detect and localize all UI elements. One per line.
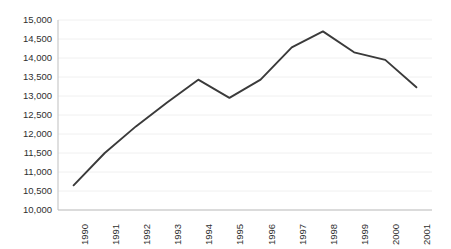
x-axis-tick-label: 1990 xyxy=(79,224,90,245)
x-axis-tick-label: 1996 xyxy=(266,224,277,245)
x-axis-tick-label: 2001 xyxy=(421,224,432,245)
x-axis-tick-label: 1993 xyxy=(172,224,183,245)
x-axis-tick-label: 1994 xyxy=(203,224,214,245)
line-chart: 15,00014,50014,00013,50013,00012,50012,0… xyxy=(0,0,451,249)
x-axis-tick-label: 1992 xyxy=(141,224,152,245)
x-axis-tick-label: 1991 xyxy=(110,224,121,245)
x-axis-tick-label: 2000 xyxy=(390,224,401,245)
x-axis-tick-label: 1997 xyxy=(297,224,308,245)
x-axis-tick-label: 1998 xyxy=(328,224,339,245)
x-axis-tick-label: 1995 xyxy=(234,224,245,245)
x-axis-tick-label: 1999 xyxy=(359,224,370,245)
x-axis-tick-labels: 1990199119921993199419951996199719981999… xyxy=(0,0,451,249)
